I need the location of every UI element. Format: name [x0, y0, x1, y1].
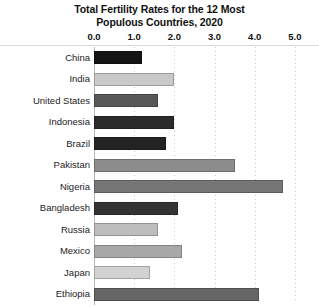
bar-row [94, 94, 319, 108]
y-label-japan: Japan [4, 267, 90, 279]
bar-japan[interactable] [94, 266, 150, 279]
y-label-ethiopia: Ethiopia [4, 288, 90, 300]
bar-row [94, 266, 319, 280]
x-tick-label-3-0: 3.0 [208, 31, 221, 42]
y-label-india: India [4, 73, 90, 85]
chart-title-line-1: Total Fertility Rates for the 12 Most [0, 3, 319, 16]
bar-india[interactable] [94, 73, 174, 86]
bar-row [94, 223, 319, 237]
bar-row [94, 244, 319, 258]
y-label-pakistan: Pakistan [4, 159, 90, 171]
bar-row [94, 180, 319, 194]
bar-indonesia[interactable] [94, 116, 174, 129]
y-label-china: China [4, 52, 90, 64]
y-label-bangladesh: Bangladesh [4, 202, 90, 214]
bar-russia[interactable] [94, 223, 158, 236]
bar-chart: Total Fertility Rates for the 12 Most Po… [0, 0, 319, 307]
bar-row [94, 158, 319, 172]
bar-nigeria[interactable] [94, 180, 283, 193]
plot-area [94, 47, 319, 305]
y-label-nigeria: Nigeria [4, 181, 90, 193]
x-tick-label-4-0: 4.0 [248, 31, 261, 42]
x-axis-tick-labels: 0.01.02.03.04.05.0 [0, 31, 319, 45]
y-label-russia: Russia [4, 224, 90, 236]
bar-row [94, 115, 319, 129]
bar-row [94, 287, 319, 301]
x-tick-label-1-0: 1.0 [128, 31, 141, 42]
chart-title: Total Fertility Rates for the 12 Most Po… [0, 3, 319, 29]
y-axis-category-labels: ChinaIndiaUnited StatesIndonesiaBrazilPa… [0, 47, 90, 305]
bar-row [94, 72, 319, 86]
chart-title-line-2: Populous Countries, 2020 [0, 16, 319, 29]
bar-brazil[interactable] [94, 137, 166, 150]
bar-pakistan[interactable] [94, 159, 235, 172]
bar-ethiopia[interactable] [94, 288, 259, 301]
bar-mexico[interactable] [94, 245, 182, 258]
axis-rule [0, 45, 319, 46]
bar-row [94, 137, 319, 151]
bar-china[interactable] [94, 51, 142, 64]
x-tick-label-5-0: 5.0 [288, 31, 301, 42]
bar-united-states[interactable] [94, 94, 158, 107]
bar-row [94, 201, 319, 215]
y-label-mexico: Mexico [4, 245, 90, 257]
y-label-brazil: Brazil [4, 138, 90, 150]
y-label-indonesia: Indonesia [4, 116, 90, 128]
bar-row [94, 51, 319, 65]
bar-bangladesh[interactable] [94, 202, 178, 215]
x-tick-label-0-0: 0.0 [87, 31, 100, 42]
y-label-united-states: United States [4, 95, 90, 107]
x-tick-label-2-0: 2.0 [168, 31, 181, 42]
